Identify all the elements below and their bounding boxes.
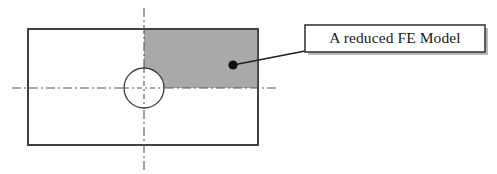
reduced-fe-model-diagram: A reduced FE Model [0,0,497,174]
figure-root: A reduced FE Model [0,0,497,174]
callout-label: A reduced FE Model [329,29,460,46]
leader-anchor-dot [228,60,237,69]
